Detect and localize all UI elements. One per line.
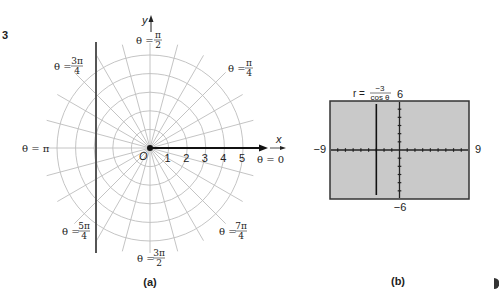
window-xmin: −9 [313,143,326,155]
polar-spoke [150,95,243,149]
window-ymin: −6 [394,201,407,213]
angle-prefix: θ = [136,35,154,46]
page-edge-marker-icon [494,278,499,289]
angle-den: 2 [156,258,162,268]
angle-num: π [246,58,252,68]
origin-label: O [139,150,148,162]
angle-num: 7π [235,221,247,231]
angle-label-5pi-over-4: θ = 5π 4 [62,221,90,241]
angle-num: 3π [153,248,165,258]
polar-axis-arrow-icon [259,145,268,152]
angle-num: 5π [78,221,90,231]
angle-num: 3π [71,56,83,66]
polar-spoke [122,45,150,148]
angle-label-pi-over-4: θ = π 4 [228,58,253,78]
angle-den: 4 [238,231,244,241]
polar-spoke [150,120,253,148]
angle-label-3pi-over-2: θ = 3π 2 [137,248,165,268]
x-axis-arrow-icon [280,146,286,150]
angle-label-3pi-over-4: θ = 3π 4 [54,56,83,76]
radial-tick-label: 2 [183,152,189,164]
polar-spoke [47,148,150,176]
angle-prefix: θ = [228,63,246,74]
screen-equation: r = −3 cos θ [353,84,391,102]
caption-b: (b) [391,275,405,287]
y-axis-label: y [141,14,149,26]
pole-dot [147,145,153,151]
angle-den: 4 [246,68,252,78]
polar-spoke [47,120,150,148]
angle-den: 2 [155,40,161,50]
angle-den: 4 [74,66,80,76]
equation-lhs: r = [353,88,365,99]
angle-label-7pi-over-4: θ = 7π 4 [219,221,247,241]
angle-label-pi-over-2: θ = π 2 [136,30,162,50]
angle-prefix: θ = [62,226,80,237]
radial-tick-label: 4 [220,152,226,164]
equation-num: −3 [375,84,385,93]
problem-number: 3 [2,29,8,41]
radial-tick-label: 1 [165,152,171,164]
angle-label-pi: θ = π [22,143,50,154]
y-axis-arrow-icon [149,15,154,22]
polar-spoke [122,148,150,251]
figure: 3 x y O 12345 θ = 0 θ = π θ = π 2 θ = π … [0,0,499,302]
calculator-screen [330,101,469,199]
angle-num: π [155,30,161,40]
caption-a: (a) [143,276,157,288]
polar-spoke [150,55,204,148]
angle-label-0: θ = 0 [257,154,284,165]
polar-spoke [150,45,178,148]
polar-spoke [57,148,150,202]
x-axis-label: x [275,133,282,145]
window-xmax: 9 [475,143,481,155]
polar-spoke [150,148,204,241]
radial-tick-label: 5 [239,152,245,164]
polar-spoke [97,55,151,148]
window-ymax: 6 [397,88,403,100]
equation-den: cos θ [370,93,390,102]
angle-prefix: θ = [219,226,237,237]
radial-tick-labels: 12345 [165,152,246,164]
angle-prefix: θ = [54,61,72,72]
angle-prefix: θ = [137,253,155,264]
angle-den: 4 [81,231,87,241]
polar-spoke [57,95,150,149]
radial-tick-label: 3 [202,152,208,164]
